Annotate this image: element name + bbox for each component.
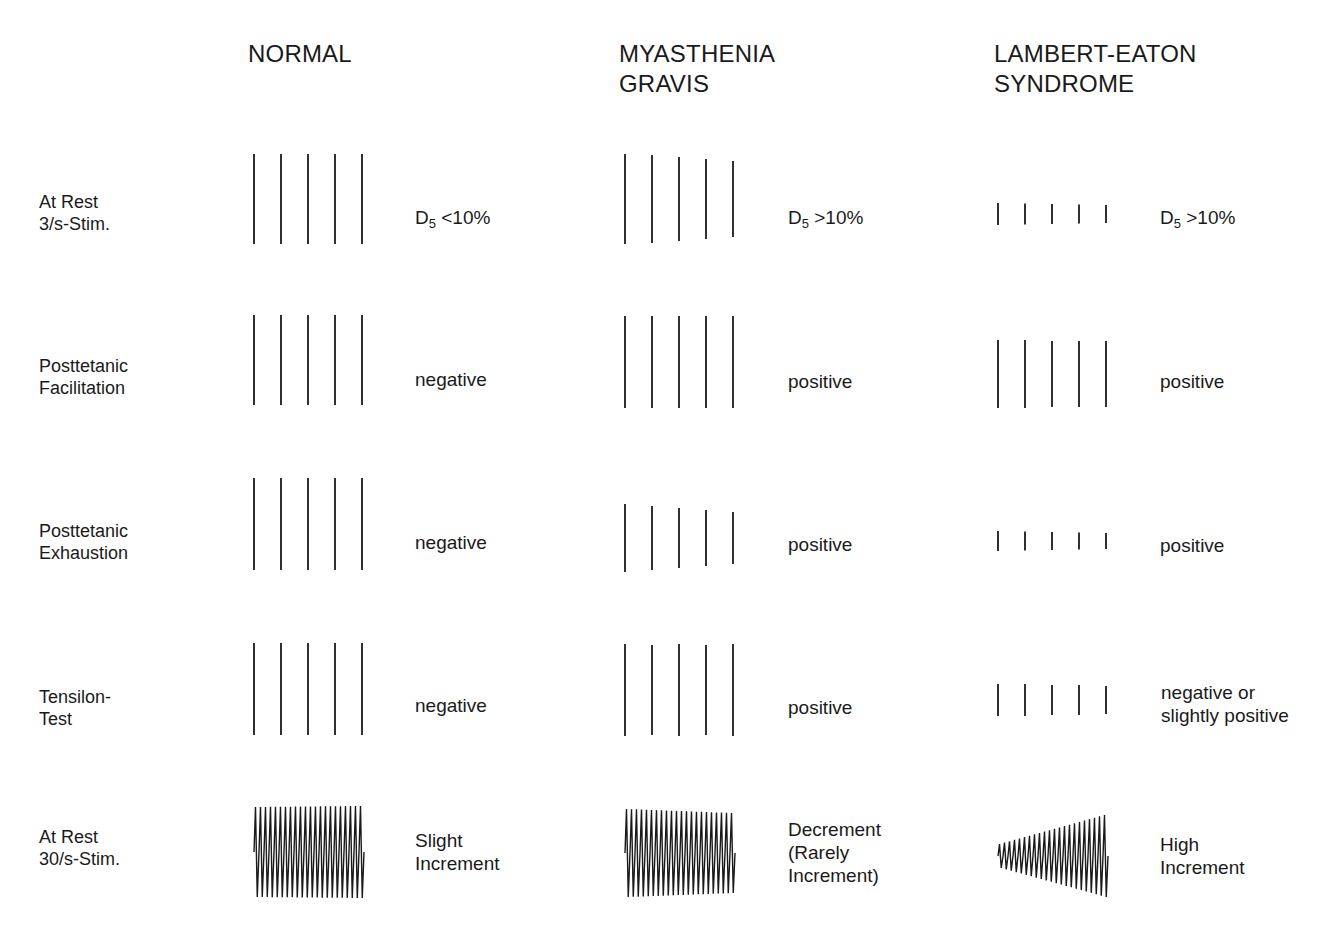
result-normal-rest3: D5 <10% — [415, 206, 490, 235]
label-line: At Rest — [39, 826, 120, 848]
threshold-text: >10% — [1181, 207, 1235, 228]
heading-line: GRAVIS — [619, 69, 775, 99]
label-line: Facilitation — [39, 377, 128, 399]
result-line: positive — [788, 696, 852, 719]
result-les-pte: positive — [1160, 534, 1224, 557]
result-line: slightly positive — [1161, 704, 1289, 727]
result-normal-ptf: negative — [415, 368, 487, 391]
cmap-train-normal-rest30 — [252, 804, 366, 900]
result-mg-rest30: Decrement (Rarely Increment) — [788, 818, 881, 887]
result-line: negative — [415, 694, 487, 717]
cmap-train-mg-rest30 — [623, 807, 737, 899]
heading-line: NORMAL — [248, 39, 352, 69]
cmap-trace-mg-pte — [623, 502, 735, 574]
result-line: positive — [1160, 534, 1224, 557]
cmap-trace-les-pte — [996, 529, 1108, 553]
result-les-ptf: positive — [1160, 370, 1224, 393]
cmap-trace-les-rest3 — [996, 201, 1108, 227]
result-line: Increment) — [788, 864, 881, 887]
result-line: negative — [415, 368, 487, 391]
label-line: At Rest — [39, 191, 110, 213]
row-label-rest-3hz: At Rest 3/s-Stim. — [39, 191, 110, 235]
row-label-tensilon-test: Tensilon- Test — [39, 686, 111, 730]
subscript: 5 — [802, 216, 809, 231]
column-heading-myasthenia-gravis: MYASTHENIA GRAVIS — [619, 39, 775, 99]
heading-line: LAMBERT-EATON — [994, 39, 1197, 69]
cmap-trace-normal-tensilon — [252, 641, 364, 737]
row-label-rest-30hz: At Rest 30/s-Stim. — [39, 826, 120, 870]
result-line: positive — [788, 533, 852, 556]
cmap-trace-les-tensilon — [996, 682, 1108, 718]
result-line: negative — [415, 531, 487, 554]
column-heading-normal: NORMAL — [248, 39, 352, 69]
cmap-trace-normal-pte — [252, 476, 364, 572]
result-line: negative or — [1161, 681, 1289, 704]
cmap-trace-mg-tensilon — [623, 642, 735, 738]
label-line: Tensilon- — [39, 686, 111, 708]
label-line: Test — [39, 708, 111, 730]
threshold-text: >10% — [809, 207, 863, 228]
label-line: Posttetanic — [39, 355, 128, 377]
subscript: 5 — [1174, 216, 1181, 231]
result-mg-pte: positive — [788, 533, 852, 556]
heading-line: MYASTHENIA — [619, 39, 775, 69]
cmap-trace-normal-ptf — [252, 313, 364, 407]
decrement-symbol: D — [415, 207, 429, 228]
cmap-trace-mg-ptf — [623, 314, 735, 410]
result-line: High — [1160, 833, 1244, 856]
cmap-trace-les-ptf — [996, 338, 1108, 410]
result-normal-rest30: Slight Increment — [415, 829, 499, 875]
result-mg-rest3: D5 >10% — [788, 206, 863, 235]
label-line: 3/s-Stim. — [39, 213, 110, 235]
cmap-trace-mg-rest3 — [623, 152, 735, 246]
threshold-text: <10% — [436, 207, 490, 228]
column-heading-lambert-eaton: LAMBERT-EATON SYNDROME — [994, 39, 1197, 99]
result-line: Increment — [1160, 856, 1244, 879]
result-normal-pte: negative — [415, 531, 487, 554]
result-mg-tensilon: positive — [788, 696, 852, 719]
result-line: Decrement — [788, 818, 881, 841]
row-label-posttetanic-exhaustion: Posttetanic Exhaustion — [39, 520, 128, 564]
row-label-posttetanic-facilitation: Posttetanic Facilitation — [39, 355, 128, 399]
result-mg-ptf: positive — [788, 370, 852, 393]
result-line: positive — [1160, 370, 1224, 393]
cmap-train-les-rest30 — [996, 813, 1110, 899]
subscript: 5 — [429, 216, 436, 231]
result-line: Slight — [415, 829, 499, 852]
result-line: Increment — [415, 852, 499, 875]
label-line: Exhaustion — [39, 542, 128, 564]
heading-line: SYNDROME — [994, 69, 1197, 99]
label-line: Posttetanic — [39, 520, 128, 542]
result-les-rest3: D5 >10% — [1160, 206, 1235, 235]
decrement-symbol: D — [788, 207, 802, 228]
result-les-rest30: High Increment — [1160, 833, 1244, 879]
result-line: positive — [788, 370, 852, 393]
result-line: (Rarely — [788, 841, 881, 864]
result-les-tensilon: negative or slightly positive — [1161, 681, 1289, 727]
decrement-symbol: D — [1160, 207, 1174, 228]
label-line: 30/s-Stim. — [39, 848, 120, 870]
cmap-trace-normal-rest3 — [252, 152, 364, 246]
result-normal-tensilon: negative — [415, 694, 487, 717]
